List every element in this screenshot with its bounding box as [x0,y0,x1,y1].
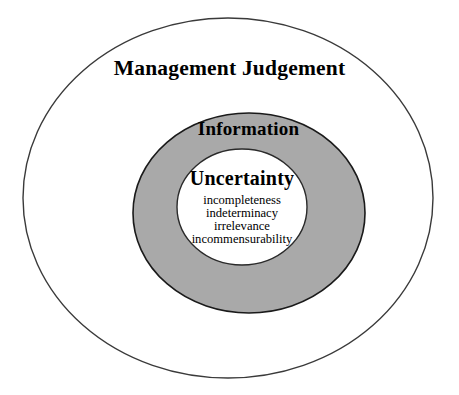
venn-diagram: Management Judgement Information Uncerta… [0,0,459,395]
ellipse-uncertainty [177,149,307,265]
venn-diagram-canvas [0,0,459,395]
